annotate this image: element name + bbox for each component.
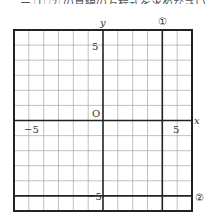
line-2-label: ②	[195, 192, 204, 203]
x-tick-5: 5	[173, 124, 179, 135]
line-1-label: ①	[158, 16, 167, 27]
y-tick-neg5: −5	[87, 191, 102, 202]
x-axis-label: x	[194, 115, 200, 126]
coordinate-graph: y x O 5 −5 −5 5 ① ②	[0, 0, 223, 223]
y-tick-5: 5	[92, 41, 98, 52]
x-tick-neg5: −5	[24, 124, 39, 135]
origin-label: O	[92, 108, 100, 119]
y-axis-label: y	[99, 17, 106, 28]
